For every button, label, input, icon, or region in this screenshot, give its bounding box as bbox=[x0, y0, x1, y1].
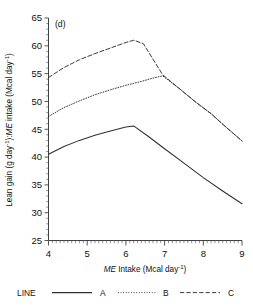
axis-lines bbox=[49, 18, 243, 241]
series-line-c bbox=[49, 40, 243, 141]
y-tick-label: 45 bbox=[31, 124, 42, 135]
y-tick-label: 50 bbox=[31, 96, 42, 107]
legend-label-c: C bbox=[228, 288, 234, 298]
y-tick-label: 30 bbox=[31, 207, 42, 218]
data-curves bbox=[49, 40, 243, 204]
figure-panel: 253035404550556065 456789 (d) ME Intake … bbox=[0, 0, 253, 307]
x-axis-title-rest: Intake (Mcal day bbox=[116, 265, 179, 274]
y-axis-title-part1: Lean gain (g day bbox=[5, 145, 14, 207]
x-axis-title: ME Intake (Mcal day-1) bbox=[104, 264, 187, 274]
x-tick-label: 5 bbox=[85, 248, 90, 259]
x-tick-label: 9 bbox=[239, 248, 244, 259]
x-tick-label: 6 bbox=[123, 248, 128, 259]
y-axis-title: Lean gain (g day-1):ME intake (Mcal day-… bbox=[4, 53, 14, 207]
legend-title: LINE bbox=[17, 288, 36, 298]
legend: LINE A B C bbox=[17, 288, 234, 298]
y-axis-title-part2: intake (Mcal day bbox=[5, 60, 14, 123]
panel-label: (d) bbox=[55, 19, 66, 29]
y-axis-tick-labels: 253035404550556065 bbox=[31, 12, 42, 246]
x-axis-tick-labels: 456789 bbox=[46, 248, 245, 259]
x-axis-title-italic: ME bbox=[104, 265, 117, 274]
y-axis-title-italic: ME bbox=[5, 123, 14, 136]
y-tick-label: 65 bbox=[31, 12, 42, 23]
x-axis-title-tail: ) bbox=[184, 265, 187, 274]
y-tick-label: 35 bbox=[31, 179, 42, 190]
x-tick-label: 4 bbox=[46, 248, 51, 259]
legend-label-b: B bbox=[163, 288, 169, 298]
y-axis-title-tail: ) bbox=[5, 53, 14, 56]
y-tick-label: 60 bbox=[31, 40, 42, 51]
y-tick-label: 55 bbox=[31, 68, 42, 79]
series-line-a bbox=[49, 126, 243, 204]
series-line-b bbox=[49, 76, 243, 141]
y-tick-label: 25 bbox=[31, 235, 42, 246]
x-tick-label: 8 bbox=[201, 248, 206, 259]
y-tick-label: 40 bbox=[31, 151, 42, 162]
chart-canvas: 253035404550556065 456789 (d) ME Intake … bbox=[0, 0, 253, 307]
x-tick-label: 7 bbox=[162, 248, 167, 259]
legend-label-a: A bbox=[100, 288, 106, 298]
